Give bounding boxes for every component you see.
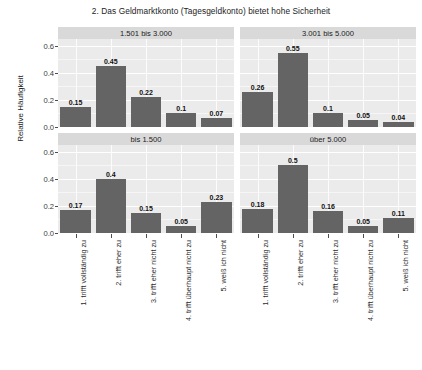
bar (383, 122, 413, 127)
x-axis-tick-label: 2. trifft eher zu (296, 240, 305, 286)
bar-slot: 0.23 (199, 145, 234, 233)
facet-strip-label: 1.501 bis 3.000 (58, 27, 234, 39)
x-axis-tick-label: 5. weiß ich nicht (219, 240, 228, 292)
bar (278, 53, 308, 127)
y-axis-tick-label: 0.6 (43, 147, 54, 156)
x-axis-tick-label: 2. trifft eher zu (114, 240, 123, 286)
y-axis-tick-label: 0.2 (43, 201, 54, 210)
bar-slot: 0.16 (310, 145, 345, 233)
x-axis-tick-mark (146, 234, 147, 238)
bar (131, 97, 161, 127)
bar (60, 210, 90, 233)
facet-panel: 3.001 bis 5.0000.260.550.10.050.04 (240, 27, 416, 127)
y-axis-tick-label: 0.4 (43, 68, 54, 77)
facet-row: bis 1.5000.170.40.150.050.23über 5.0000.… (58, 133, 416, 233)
faceted-bar-chart: 2. Das Geldmarktkonto (Tagesgeldkonto) b… (0, 0, 422, 370)
bar-slot: 0.17 (58, 145, 93, 233)
facet-row: 1.501 bis 3.0000.150.450.220.10.073.001 … (58, 27, 416, 127)
bar-value-label: 0.05 (174, 218, 188, 225)
bar (201, 118, 231, 127)
chart-title: 2. Das Geldmarktkonto (Tagesgeldkonto) b… (0, 6, 422, 16)
bar (348, 120, 378, 127)
plot-panel: 0.150.450.220.10.07 (58, 39, 234, 127)
x-axis-tick-label: 3. trifft eher nicht zu (331, 240, 340, 303)
bar-slot: 0.4 (93, 145, 128, 233)
bar (60, 107, 90, 127)
bar-value-label: 0.18 (251, 201, 265, 208)
plot-panel: 0.170.40.150.050.23 (58, 145, 234, 233)
plot-panel: 0.180.50.160.050.11 (240, 145, 416, 233)
bar-slot: 0.15 (58, 39, 93, 127)
bar (242, 92, 272, 127)
bar-series: 0.180.50.160.050.11 (240, 145, 416, 233)
bar-value-label: 0.15 (69, 99, 83, 106)
bar-slot: 0.04 (381, 39, 416, 127)
bar-slot: 0.1 (310, 39, 345, 127)
bar-slot: 0.5 (275, 145, 310, 233)
bar-value-label: 0.26 (251, 84, 265, 91)
y-axis-tick-label: 0.4 (43, 174, 54, 183)
bar-value-label: 0.05 (356, 112, 370, 119)
bar-value-label: 0.17 (69, 202, 83, 209)
x-axis-tick-label: 4. trifft überhaupt nicht zu (184, 240, 193, 321)
bar (313, 211, 343, 233)
facet-strip-label: 3.001 bis 5.000 (240, 27, 416, 39)
x-axis-tick-mark (398, 234, 399, 238)
bar-slot: 0.05 (164, 145, 199, 233)
facet-panel: über 5.0000.180.50.160.050.11 (240, 133, 416, 233)
bar-series: 0.260.550.10.050.04 (240, 39, 416, 127)
bar-value-label: 0.1 (323, 105, 333, 112)
x-axis-tick-label: 4. trifft überhaupt nicht zu (366, 240, 375, 321)
bar-value-label: 0.23 (210, 194, 224, 201)
facet-panel: 1.501 bis 3.0000.150.450.220.10.07 (58, 27, 234, 127)
y-axis-tick-label: 0.0 (43, 123, 54, 132)
bar-value-label: 0.16 (321, 203, 335, 210)
bar-slot: 0.55 (275, 39, 310, 127)
facet-grid: 1.501 bis 3.0000.150.450.220.10.073.001 … (58, 27, 416, 229)
bar (383, 218, 413, 233)
bar-value-label: 0.5 (288, 157, 298, 164)
bar-slot: 0.1 (164, 39, 199, 127)
bar-slot: 0.05 (346, 39, 381, 127)
y-axis-bottom-row: 0.00.20.40.6 (0, 145, 58, 233)
x-axis-tick-mark (111, 234, 112, 238)
y-axis-tick-label: 0.6 (43, 41, 54, 50)
bar-value-label: 0.15 (139, 205, 153, 212)
facet-panel: bis 1.5000.170.40.150.050.23 (58, 133, 234, 233)
bar-value-label: 0.45 (104, 58, 118, 65)
x-axis-tick-label: 3. trifft eher nicht zu (149, 240, 158, 303)
x-axis-tick-mark (328, 234, 329, 238)
x-axis-tick-label: 1. trifft vollständig zu (79, 240, 88, 305)
bar-slot: 0.26 (240, 39, 275, 127)
bar (313, 113, 343, 127)
bar-value-label: 0.05 (356, 218, 370, 225)
y-axis-tick-label: 0.0 (43, 229, 54, 238)
x-axis-tick-mark (258, 234, 259, 238)
bar-series: 0.150.450.220.10.07 (58, 39, 234, 127)
bar-slot: 0.22 (128, 39, 163, 127)
bar-slot: 0.05 (346, 145, 381, 233)
x-axis-labels: 1. trifft vollständig zu2. trifft eher z… (58, 240, 416, 360)
x-axis-tick-mark (76, 234, 77, 238)
bar-value-label: 0.4 (106, 171, 116, 178)
bar (166, 113, 196, 127)
y-axis-top-row: 0.00.20.40.6 (0, 39, 58, 127)
x-axis-tick-mark (293, 234, 294, 238)
plot-panel: 0.260.550.10.050.04 (240, 39, 416, 127)
bar-value-label: 0.11 (392, 210, 405, 217)
bar (278, 165, 308, 233)
bar (96, 179, 126, 233)
bar-slot: 0.07 (199, 39, 234, 127)
bar-slot: 0.45 (93, 39, 128, 127)
bar (96, 66, 126, 127)
facet-strip-label: über 5.000 (240, 133, 416, 145)
bar (348, 226, 378, 233)
bar-slot: 0.11 (381, 145, 416, 233)
bar (131, 213, 161, 233)
bar-slot: 0.18 (240, 145, 275, 233)
x-axis-tick-mark (363, 234, 364, 238)
x-axis-tick-mark (216, 234, 217, 238)
x-axis-tick-label: 1. trifft vollständig zu (261, 240, 270, 305)
facet-strip-label: bis 1.500 (58, 133, 234, 145)
bar-value-label: 0.55 (286, 45, 300, 52)
